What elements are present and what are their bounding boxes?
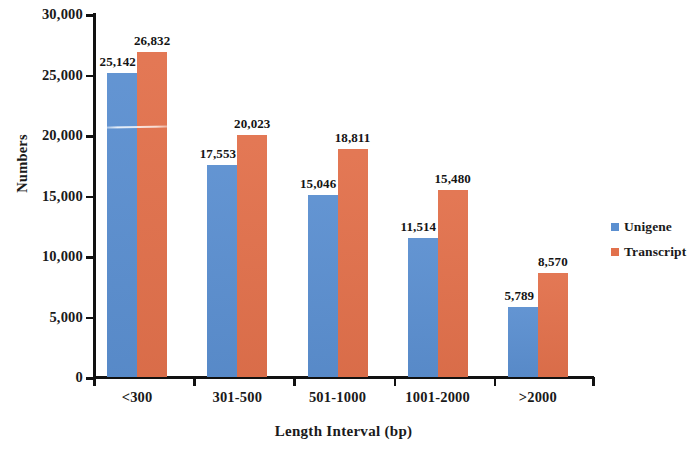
x-axis-tick-mark [394,377,397,386]
legend-swatch-icon [611,223,619,231]
bar-unigene[interactable]: 5,789 [508,307,538,377]
bar-transcript[interactable]: 18,811 [338,149,368,377]
bar-value-label: 17,553 [200,146,236,162]
bar-unigene[interactable]: 17,553 [207,165,237,377]
bar-group: 17,55320,023 [207,14,267,377]
legend-item-transcript[interactable]: Transcript [611,241,697,262]
bar-unigene[interactable]: 25,142 [107,73,137,377]
x-axis-tick-mark [592,377,595,386]
x-axis-title: Length Interval (bp) [93,423,594,440]
y-axis-tick-mark [86,135,94,138]
y-axis-tick-mark [86,196,94,199]
bar-value-label: 18,811 [335,130,371,146]
legend-label: Transcript [624,244,686,260]
chart-legend: UnigeneTranscript [611,216,697,266]
y-axis-tick-label: 10,000 [42,248,83,265]
y-axis-tick-mark [86,14,94,17]
bar-value-label: 25,142 [100,54,136,70]
y-axis-tick-label: 15,000 [42,187,83,204]
bar-unigene[interactable]: 11,514 [408,238,438,377]
bar-group: 25,14226,832 [107,14,167,377]
y-axis-tick-label: 5,000 [49,308,83,325]
bar-value-label: 11,514 [401,219,437,235]
y-axis-tick-mark [86,256,94,259]
bar-group: 11,51415,480 [408,14,468,377]
plot-area: 05,00010,00015,00020,00025,00030,000 25,… [93,14,594,377]
y-axis-tick-label: 30,000 [42,6,83,23]
bar-transcript[interactable]: 8,570 [538,273,568,377]
x-axis-category-label: 1001-2000 [405,389,470,406]
y-axis-tick-label: 0 [76,369,83,386]
y-axis-tick-label: 20,000 [42,127,83,144]
legend-swatch-icon [611,248,619,256]
bar-value-label: 5,789 [504,288,534,304]
x-axis-tick-mark [293,377,296,386]
bar-group: 15,04618,811 [308,14,368,377]
bar-transcript[interactable]: 26,832 [137,52,167,377]
bar-value-label: 15,480 [435,171,471,187]
x-axis-category-label: >2000 [519,389,557,406]
x-axis-tick-mark [494,377,497,386]
y-axis-tick-mark [86,317,94,320]
bar-group: 5,7898,570 [508,14,568,377]
x-axis-category-label: <300 [122,389,153,406]
legend-item-unigene[interactable]: Unigene [611,216,697,237]
bar-unigene[interactable]: 15,046 [308,195,338,377]
y-axis-title: Numbers [14,104,31,224]
bar-value-label: 26,832 [134,33,170,49]
x-axis-tick-mark [193,377,196,386]
legend-label: Unigene [624,219,672,235]
x-axis-category-label: 501-1000 [309,389,366,406]
bar-transcript[interactable]: 15,480 [438,190,468,377]
bar-transcript[interactable]: 20,023 [237,135,267,377]
x-axis-category-label: 301-500 [212,389,262,406]
x-axis-tick-mark [93,377,96,386]
bar-value-label: 20,023 [234,116,270,132]
bar-chart-figure: Numbers 05,00010,00015,00020,00025,00030… [0,0,698,449]
bar-value-label: 8,570 [538,254,568,270]
bar-value-label: 15,046 [300,176,336,192]
y-axis-tick-label: 25,000 [42,66,83,83]
y-axis-tick-mark [86,75,94,78]
